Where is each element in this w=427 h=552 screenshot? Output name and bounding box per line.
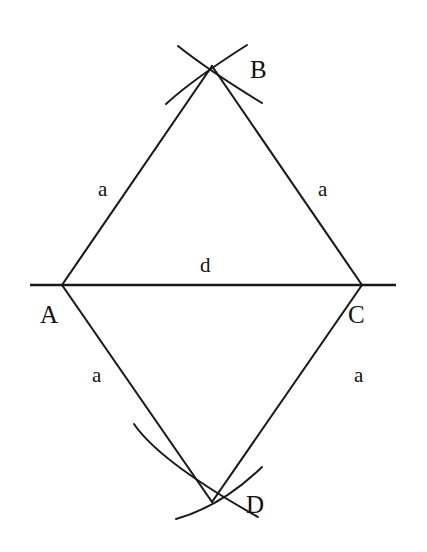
vertex-label-C: C (348, 301, 365, 328)
diagonal-label-d: d (200, 253, 211, 277)
side-label-AD: a (92, 363, 102, 387)
edge-AD (62, 285, 212, 502)
edge-DC (212, 285, 362, 502)
construction-arc-d-left (134, 424, 258, 517)
vertex-label-D: D (246, 491, 264, 518)
geometry-diagram: A B C D a a a a d (0, 0, 427, 552)
rhombus-figure-svg: A B C D a a a a d (0, 0, 427, 552)
edge-BC (212, 66, 362, 285)
side-label-DC: a (354, 363, 364, 387)
side-label-AB: a (98, 177, 108, 201)
vertex-label-A: A (40, 301, 58, 328)
vertex-label-B: B (250, 56, 267, 83)
side-label-BC: a (318, 177, 328, 201)
edge-AB (62, 66, 212, 285)
